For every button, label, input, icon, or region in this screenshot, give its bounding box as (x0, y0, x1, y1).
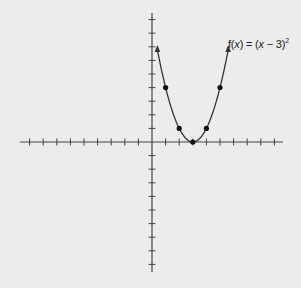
data-point (163, 85, 168, 90)
data-point (217, 85, 222, 90)
data-point (177, 126, 182, 131)
data-point (204, 126, 209, 131)
parabola-curve (157, 50, 228, 142)
arrow-head-icon (155, 45, 161, 52)
function-label: f(x) = (x − 3)2 (228, 37, 289, 50)
data-point (190, 139, 195, 144)
